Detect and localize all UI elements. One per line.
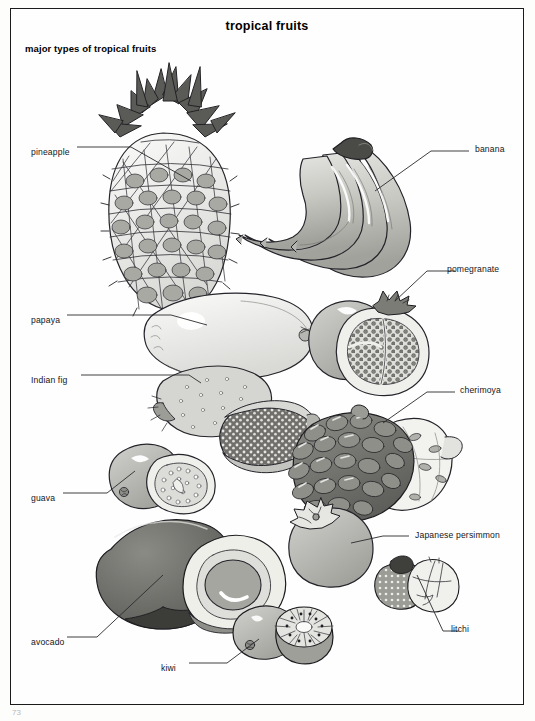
label-text: pineapple [31, 147, 70, 157]
leader-indian-fig [81, 375, 201, 383]
label-kiwi: kiwi [161, 664, 176, 673]
label-litchi: litchi [451, 625, 469, 634]
papaya-illustration [144, 293, 313, 379]
leader-banana [375, 151, 469, 191]
label-text: Japanese persimmon [415, 530, 500, 540]
leader-avocado [67, 575, 163, 637]
label-text: pomegranate [447, 264, 499, 274]
kiwi-illustration [233, 606, 333, 664]
label-indian-fig: Indian fig [31, 376, 67, 385]
label-pomegranate: pomegranate [447, 265, 499, 274]
banana-illustration [236, 138, 411, 277]
label-text: papaya [31, 315, 60, 325]
leader-cherimoya [383, 392, 455, 423]
leader-kiwi [189, 639, 259, 663]
label-text: banana [475, 144, 505, 154]
label-text: litchi [451, 624, 469, 634]
label-pineapple: pineapple [31, 148, 70, 157]
leader-litchi [417, 575, 459, 631]
pineapple-illustration [99, 63, 239, 321]
indian-fig-illustration [148, 366, 320, 473]
label-text: avocado [31, 637, 65, 647]
label-papaya: papaya [31, 316, 60, 325]
leader-pineapple [77, 147, 191, 181]
label-guava: guava [31, 494, 55, 503]
label-text: Indian fig [31, 375, 67, 385]
litchi-illustration [375, 556, 459, 612]
label-text: cherimoya [460, 385, 501, 395]
label-text: kiwi [161, 663, 176, 673]
illustration-plate: tropical fruits major types of tropical … [10, 8, 524, 705]
leader-guava [63, 471, 135, 493]
cherimoya-illustration [286, 405, 462, 521]
label-japanese-persimmon: Japanese persimmon [415, 531, 500, 540]
leader-line-group [11, 9, 525, 706]
leader-papaya [67, 315, 207, 325]
pomegranate-illustration [309, 291, 429, 396]
label-cherimoya: cherimoya [460, 386, 501, 395]
avocado-illustration [96, 520, 285, 633]
label-avocado: avocado [31, 638, 65, 647]
label-banana: banana [475, 145, 505, 154]
guava-illustration [109, 444, 215, 514]
fruit-illustration-group [11, 9, 525, 706]
page-number: 73 [12, 708, 21, 717]
plate-subtitle: major types of tropical fruits [25, 43, 156, 54]
leader-pomegranate [395, 271, 455, 301]
page-title: tropical fruits [11, 19, 523, 33]
leader-japanese-persimmon [351, 536, 409, 543]
japanese-persimmon-illustration [289, 498, 373, 587]
label-text: guava [31, 493, 55, 503]
